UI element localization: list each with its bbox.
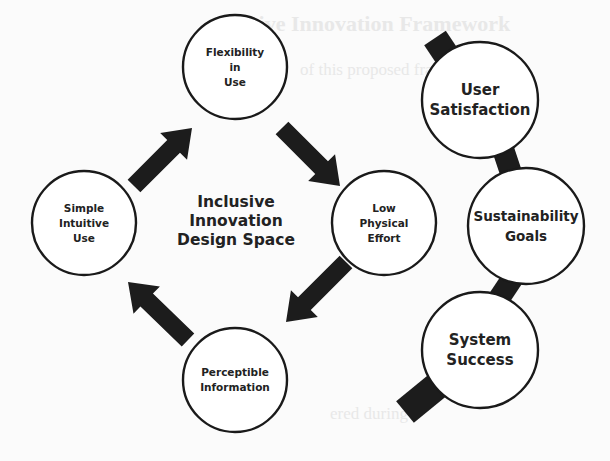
node-label: Satisfaction <box>429 101 530 119</box>
node-label: Goals <box>505 228 547 244</box>
node-system-success: SystemSuccess <box>422 292 538 408</box>
node-user-satisfaction: UserSatisfaction <box>422 42 538 158</box>
outcome-circle <box>422 292 538 408</box>
node-label: Success <box>446 351 513 369</box>
node-label: Sustainability <box>473 208 578 224</box>
node-label: Perceptible <box>201 366 269 378</box>
node-label: Intuitive <box>59 217 109 229</box>
arrow-effort-to-perceptible-icon <box>286 256 352 322</box>
node-sustainability-goals: SustainabilityGoals <box>468 168 584 284</box>
node-label: Use <box>224 76 246 88</box>
node-label: Simple <box>64 202 104 214</box>
node-label: System <box>449 331 511 349</box>
node-simple-intuitive-use: SimpleIntuitiveUse <box>32 171 136 275</box>
node-label: Information <box>200 381 270 393</box>
arrow-perceptible-to-simple-icon <box>128 282 194 346</box>
node-label: in <box>229 61 240 73</box>
principle-circle <box>183 328 287 432</box>
node-label: Flexibility <box>206 46 265 58</box>
node-label: Physical <box>360 217 409 229</box>
node-flexibility: FlexibilityinUse <box>183 15 287 119</box>
arrow-simple-to-flexibility-icon <box>128 128 192 192</box>
node-perceptible-information: PerceptibleInformation <box>183 328 287 432</box>
center-label-line: Inclusive <box>197 193 275 211</box>
center-label-line: Innovation <box>189 212 282 230</box>
diagram-nodes: FlexibilityinUseLowPhysicalEffortPercept… <box>32 15 584 432</box>
center-label-line: Design Space <box>177 231 295 249</box>
node-label: Low <box>372 202 396 214</box>
node-label: Effort <box>367 232 400 244</box>
inclusive-innovation-diagram: FlexibilityinUseLowPhysicalEffortPercept… <box>0 0 610 461</box>
arrow-flexibility-to-effort-icon <box>276 122 340 186</box>
center-label: InclusiveInnovationDesign Space <box>177 193 295 249</box>
outcome-circle <box>422 42 538 158</box>
node-label: User <box>461 81 500 99</box>
node-low-physical-effort: LowPhysicalEffort <box>332 171 436 275</box>
node-label: Use <box>73 232 95 244</box>
outcome-circle <box>468 168 584 284</box>
